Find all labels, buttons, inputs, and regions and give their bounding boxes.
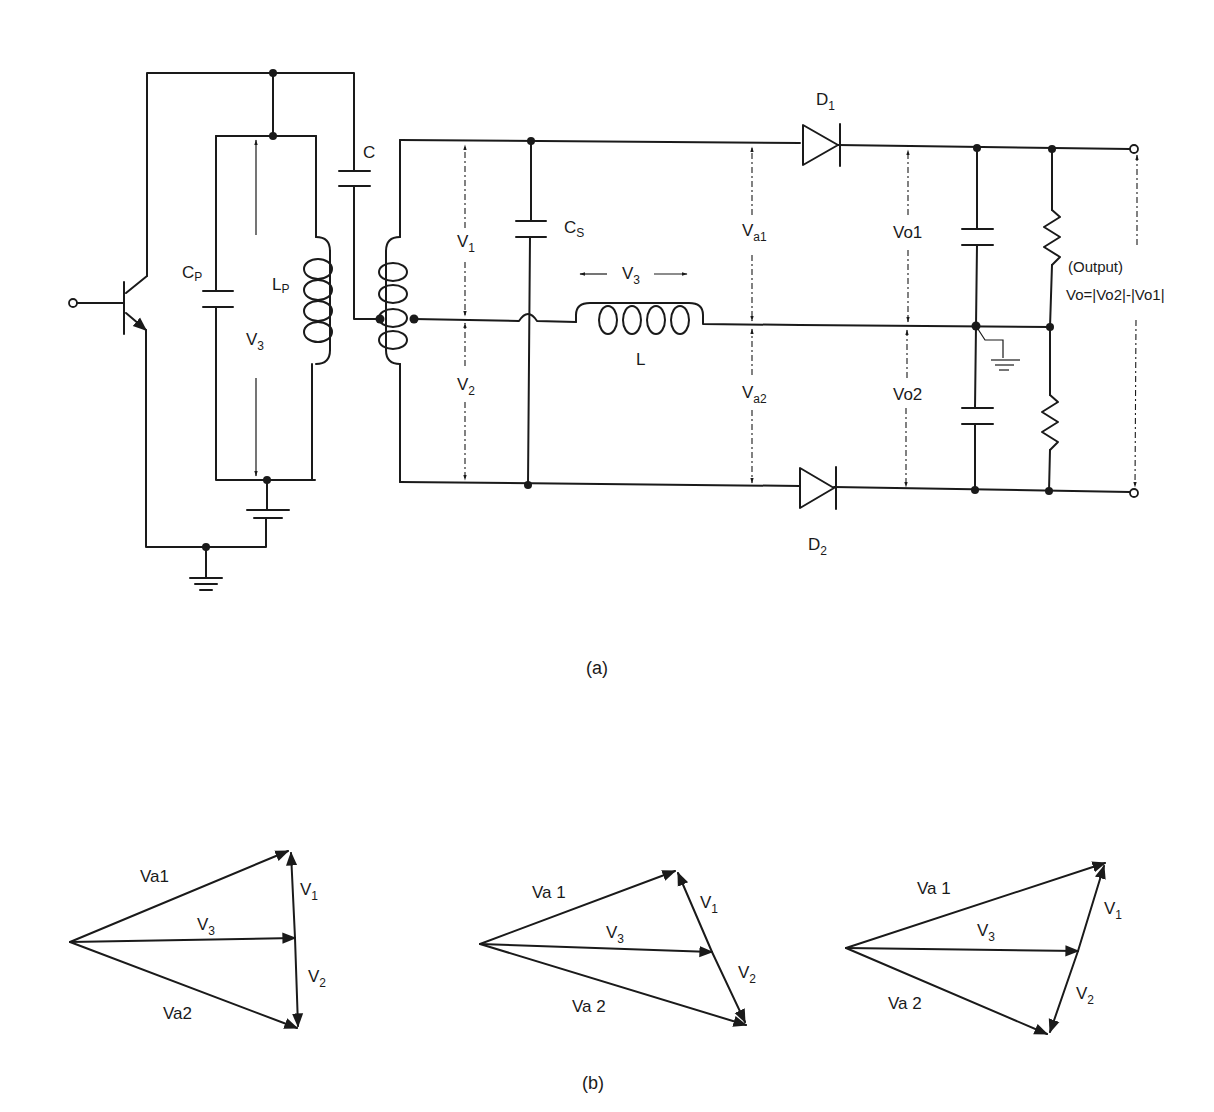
output-terminal-top	[1130, 145, 1138, 153]
phasor1-label-v3: V3	[197, 915, 215, 938]
phasor1-label-va1: Va1	[140, 867, 169, 886]
phasor2-label-v2: V2	[738, 963, 756, 986]
phasor2-label-v1: V1	[700, 893, 718, 916]
transistor-symbol	[69, 73, 273, 547]
label-v2: V2	[457, 375, 475, 398]
phasor2-label-v3: V3	[606, 923, 624, 946]
capacitor-c	[339, 163, 380, 319]
label-cs: CS	[564, 218, 584, 240]
center-tap-line	[414, 314, 576, 322]
ground-symbol	[190, 547, 222, 590]
phasor2-label-va1: Va 1	[532, 883, 566, 902]
transformer-secondary	[379, 140, 407, 482]
top-bus	[273, 73, 354, 163]
phasor-diagram-2: Va 1 Va 2 V3 V1 V2	[480, 871, 756, 1025]
label-vo2: Vo2	[893, 385, 922, 404]
phasor3-label-v3: V3	[977, 921, 995, 944]
phasor-diagram-3: Va 1 Va 2 V3 V1 V2	[846, 863, 1122, 1034]
label-d1: D1	[816, 90, 835, 113]
secondary-top-rail	[400, 140, 800, 143]
load-resistors	[1042, 145, 1060, 495]
caption-a: (a)	[586, 658, 608, 678]
output-voltage-arrow	[1135, 155, 1137, 487]
battery-symbol	[206, 480, 289, 547]
filter-capacitors	[962, 144, 993, 494]
label-cp: CP	[182, 263, 202, 284]
label-output-title: (Output)	[1068, 258, 1123, 275]
diode-d2	[800, 467, 1130, 509]
inductor-lp	[304, 237, 332, 364]
label-d2: D2	[808, 535, 827, 558]
diode-d1	[803, 124, 1130, 166]
phasor3-label-va1: Va 1	[917, 879, 951, 898]
phasor-diagram-1: Va1 Va2 V3 V1 V2	[70, 851, 326, 1028]
phasor-diagrams: Va1 Va2 V3 V1 V2 Va 1 Va 2 V3 V1 V2 Va	[70, 851, 1122, 1093]
phasor3-label-v1: V1	[1104, 899, 1122, 922]
inductor-l	[576, 274, 800, 334]
label-va1: Va1	[742, 221, 767, 244]
label-v1: V1	[457, 232, 475, 255]
phasor1-label-v1: V1	[300, 880, 318, 903]
input-terminal	[69, 299, 77, 307]
label-lp: LP	[272, 275, 289, 296]
label-vo1: Vo1	[893, 223, 922, 242]
label-v3-l: V3	[622, 264, 640, 287]
phasor2-label-va2: Va 2	[572, 997, 606, 1016]
tank-circuit	[203, 136, 332, 480]
discriminator-circuit-figure: C CP LP V3 V1 V2 CS V3 L Va1 Va2 D1 D2 V…	[0, 0, 1214, 1112]
label-inductor-l: L	[636, 350, 645, 369]
capacitor-cs	[516, 141, 546, 485]
phasor1-label-v2: V2	[308, 967, 326, 990]
phasor3-label-va2: Va 2	[888, 994, 922, 1013]
phasor1-label-va2: Va2	[163, 1004, 192, 1023]
phasor3-label-v2: V2	[1076, 984, 1094, 1007]
middle-rail	[800, 325, 1050, 327]
vo1-vo2-arrows	[906, 150, 908, 487]
output-terminal-bottom	[1130, 489, 1138, 497]
circuit-schematic: C CP LP V3 V1 V2 CS V3 L Va1 Va2 D1 D2 V…	[69, 69, 1165, 678]
label-output-formula: Vo=|Vo2|-|Vo1|	[1066, 286, 1165, 303]
ground-symbol-output	[976, 326, 1020, 370]
label-va2: Va2	[742, 383, 767, 406]
label-capacitor-c: C	[363, 143, 375, 162]
secondary-bottom-rail	[400, 482, 800, 486]
label-v3-tank: V3	[246, 330, 264, 353]
caption-b: (b)	[582, 1073, 604, 1093]
